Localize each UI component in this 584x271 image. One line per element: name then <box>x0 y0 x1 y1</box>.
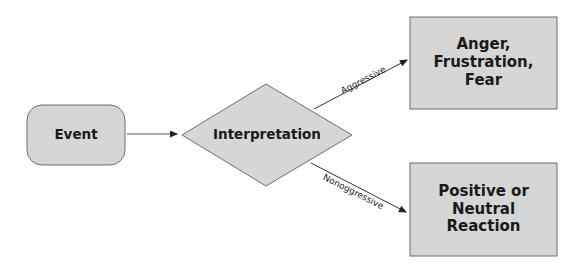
positive-label-line-1: Positive or <box>438 183 529 201</box>
positive-label-line-2: Neutral <box>438 201 529 219</box>
anger-label-line-2: Frustration, <box>434 54 534 72</box>
anger-label-line-1: Anger, <box>434 36 534 54</box>
anger-node-label: Anger, Frustration, Fear <box>410 17 557 109</box>
flowchart-canvas: Event Interpretation Anger, Frustration,… <box>0 0 584 271</box>
event-node-label: Event <box>27 105 125 165</box>
event-label-text: Event <box>54 127 97 143</box>
positive-node-label: Positive or Neutral Reaction <box>410 163 557 256</box>
interpretation-node-label: Interpretation <box>182 84 352 186</box>
interpretation-label-text: Interpretation <box>213 127 321 143</box>
anger-label-line-3: Fear <box>434 72 534 90</box>
positive-label-line-3: Reaction <box>438 218 529 236</box>
